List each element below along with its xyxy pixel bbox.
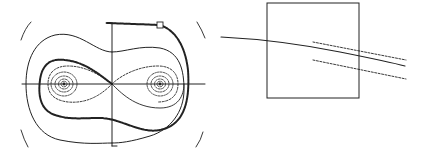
diagram-canvas xyxy=(0,0,425,155)
highlighted-trajectory xyxy=(39,23,188,131)
outer-arc-top-right xyxy=(197,22,205,38)
outer-arc-bottom-right xyxy=(196,132,203,147)
right-center-point xyxy=(159,83,162,86)
outer-arc-bottom-left xyxy=(21,130,28,147)
outer-arc-top-left xyxy=(21,22,31,40)
zoom-box xyxy=(267,3,359,98)
outer-orbit-right xyxy=(112,47,184,143)
figure xyxy=(0,0,425,155)
phase-portrait-panel xyxy=(21,22,205,147)
zoom-box-panel xyxy=(221,3,406,98)
left-center-point xyxy=(63,83,66,86)
square-marker xyxy=(157,22,163,28)
solid-curve xyxy=(221,37,405,66)
